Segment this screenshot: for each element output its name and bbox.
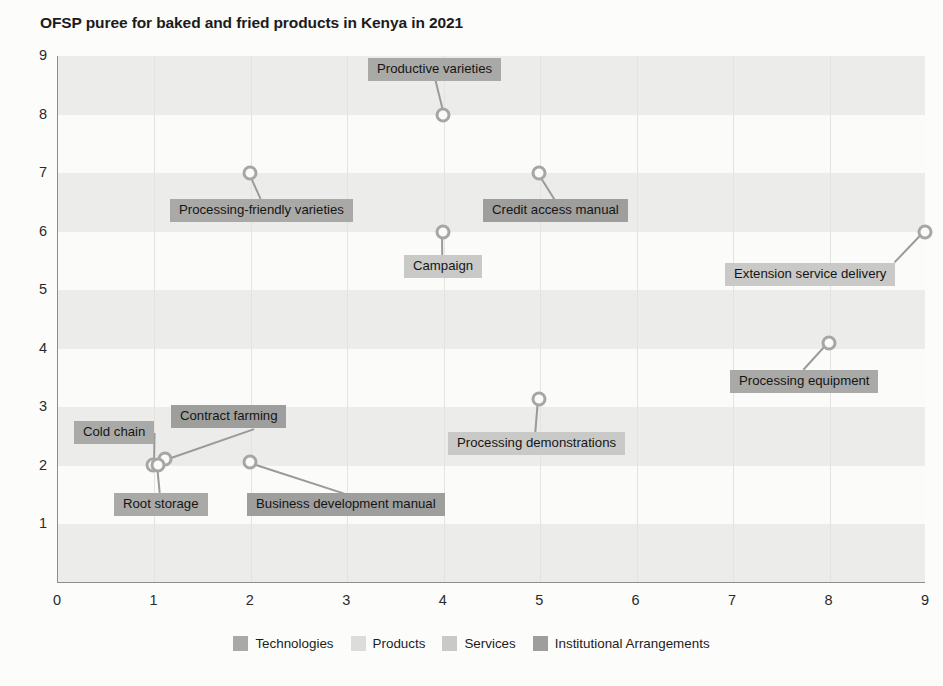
scatter-chart: OFSP puree for baked and fried products … bbox=[0, 0, 943, 686]
data-point-marker[interactable] bbox=[918, 224, 933, 239]
data-point-marker[interactable] bbox=[435, 224, 450, 239]
data-point-label: Processing equipment bbox=[730, 370, 878, 393]
data-point-marker[interactable] bbox=[532, 391, 547, 406]
legend-label: Technologies bbox=[255, 636, 333, 651]
plot-band bbox=[58, 524, 925, 583]
vertical-gridline bbox=[540, 56, 541, 582]
data-point-label: Business development manual bbox=[247, 493, 445, 516]
data-point-marker[interactable] bbox=[821, 335, 836, 350]
data-point-marker[interactable] bbox=[532, 166, 547, 181]
data-point-label: Root storage bbox=[114, 493, 208, 516]
y-tick-4: 4 bbox=[19, 340, 47, 356]
data-point-label: Productive varieties bbox=[368, 58, 501, 81]
y-tick-9: 9 bbox=[19, 47, 47, 63]
legend-label: Institutional Arrangements bbox=[555, 636, 710, 651]
x-tick-2: 2 bbox=[235, 592, 265, 608]
y-tick-6: 6 bbox=[19, 223, 47, 239]
chart-legend: TechnologiesProductsServicesInstitutiona… bbox=[0, 636, 943, 651]
x-tick-7: 7 bbox=[717, 592, 747, 608]
vertical-gridline bbox=[637, 56, 638, 582]
y-tick-1: 1 bbox=[19, 515, 47, 531]
y-tick-3: 3 bbox=[19, 398, 47, 414]
legend-item[interactable]: Products bbox=[351, 636, 426, 651]
data-point-label: Credit access manual bbox=[483, 199, 628, 222]
data-point-label: Campaign bbox=[404, 255, 482, 278]
data-point-label: Cold chain bbox=[74, 421, 154, 444]
legend-swatch-icon bbox=[533, 636, 548, 651]
x-tick-8: 8 bbox=[814, 592, 844, 608]
y-tick-8: 8 bbox=[19, 106, 47, 122]
legend-item[interactable]: Services bbox=[442, 636, 515, 651]
legend-swatch-icon bbox=[442, 636, 457, 651]
data-point-marker[interactable] bbox=[151, 457, 166, 472]
plot-band bbox=[58, 290, 925, 349]
x-tick-1: 1 bbox=[138, 592, 168, 608]
x-tick-5: 5 bbox=[524, 592, 554, 608]
legend-item[interactable]: Technologies bbox=[233, 636, 333, 651]
data-point-marker[interactable] bbox=[242, 166, 257, 181]
data-point-label: Processing-friendly varieties bbox=[170, 199, 353, 222]
y-tick-2: 2 bbox=[19, 457, 47, 473]
legend-item[interactable]: Institutional Arrangements bbox=[533, 636, 710, 651]
data-point-marker[interactable] bbox=[435, 107, 450, 122]
y-tick-7: 7 bbox=[19, 164, 47, 180]
x-tick-3: 3 bbox=[331, 592, 361, 608]
x-tick-6: 6 bbox=[621, 592, 651, 608]
legend-swatch-icon bbox=[351, 636, 366, 651]
legend-swatch-icon bbox=[233, 636, 248, 651]
chart-title: OFSP puree for baked and fried products … bbox=[40, 14, 463, 32]
x-tick-0: 0 bbox=[42, 592, 72, 608]
x-tick-9: 9 bbox=[910, 592, 940, 608]
vertical-gridline bbox=[830, 56, 831, 582]
data-point-marker[interactable] bbox=[242, 454, 257, 469]
legend-label: Services bbox=[464, 636, 515, 651]
data-point-label: Processing demonstrations bbox=[448, 432, 625, 455]
y-tick-5: 5 bbox=[19, 281, 47, 297]
x-tick-4: 4 bbox=[428, 592, 458, 608]
data-point-label: Contract farming bbox=[171, 405, 286, 428]
legend-label: Products bbox=[373, 636, 426, 651]
vertical-gridline bbox=[733, 56, 734, 582]
data-point-label: Extension service delivery bbox=[725, 263, 895, 286]
